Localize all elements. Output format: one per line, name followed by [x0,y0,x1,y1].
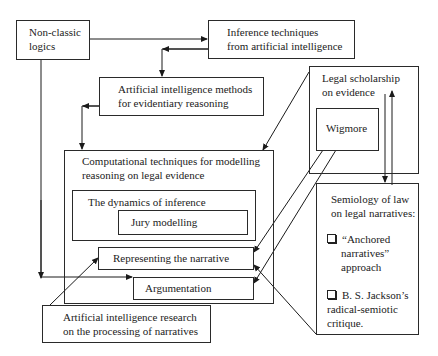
node-jury-label: Jury modelling [131,216,197,229]
node-ai-research-line1: Artificial intelligence research [63,311,197,324]
checkbox-bullet-icon [327,290,336,299]
node-semiology-line1: Semiology of law [331,193,409,206]
node-inference-line2: from artificial intelligence [227,40,342,53]
node-computational-line1: Computational techniques for modelling [82,155,260,168]
semiology-item-anchored: “Anchored [327,233,390,246]
semiology-item1-line3: approach [341,261,381,274]
semiology-item1-line2: narratives” [341,247,389,260]
node-legal-line2: on evidence [322,86,375,99]
node-semiology-line2: on legal narratives: [331,207,415,220]
node-ai-research-line2: on the processing of narratives [63,325,198,338]
semiology-item2-line2: radical-semiotic [327,303,398,316]
node-non-classic-line2: logics [29,40,55,53]
semiology-item2-line1: B. S. Jackson’s [342,289,409,301]
semiology-item2-line3: critique. [327,317,363,330]
node-ai-methods-line2: for evidentiary reasoning [118,97,229,110]
node-representing-label: Representing the narrative [113,252,229,265]
checkbox-bullet-icon [327,234,336,243]
node-argumentation-label: Argumentation [145,282,211,295]
node-legal-line1: Legal scholarship [322,72,400,85]
semiology-item-jackson: B. S. Jackson’s [327,289,409,302]
node-dynamics-label: The dynamics of inference [88,196,206,209]
node-ai-methods-line1: Artificial intelligence methods [118,83,252,96]
node-computational-line2: reasoning on legal evidence [82,169,204,182]
node-wigmore-label: Wigmore [326,122,367,135]
semiology-item1-line1: “Anchored [342,233,390,245]
node-inference-line1: Inference techniques [227,26,318,39]
diagram-canvas: Non-classic logics Inference techniques … [0,0,438,356]
node-non-classic-line1: Non-classic [29,26,81,39]
